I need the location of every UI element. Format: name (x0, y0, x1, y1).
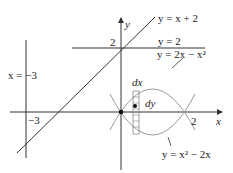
origin-dot (119, 110, 124, 115)
parabola-down (110, 89, 195, 130)
y-axis-label: y (124, 18, 130, 30)
pointer-parabola-up (168, 137, 171, 146)
x-tick-neg3: −3 (28, 114, 40, 126)
label-line-y-2: y = 2 (158, 35, 181, 47)
diagram-canvas: y x 2 −3 2 y = x + 2 y = 2 x = −3 y = 2x… (0, 0, 233, 173)
label-dy: dy (145, 97, 156, 109)
y-tick-2: 2 (110, 36, 116, 48)
label-line-x-plus-2: y = x + 2 (158, 12, 198, 24)
label-parabola-up: y = x² − 2x (162, 148, 211, 160)
label-line-x-neg3: x = −3 (8, 69, 37, 81)
x-tick-2: 2 (191, 115, 197, 127)
label-dx: dx (132, 76, 143, 88)
sample-point-dot (133, 104, 137, 108)
x-axis-label: x (215, 115, 221, 127)
label-parabola-down: y = 2x − x² (157, 48, 206, 60)
